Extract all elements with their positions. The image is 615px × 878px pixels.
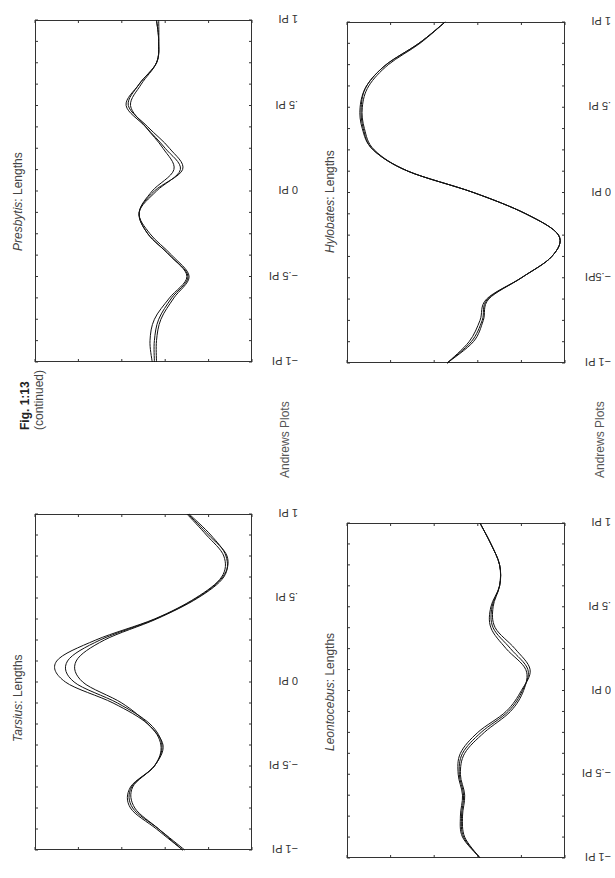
theta-tick-label: −.5 PI [269,270,298,282]
panel-hylobates: −1 PI−.5PI0 PI.5 PI1 PIHylobates: Length… [347,22,565,363]
andrews-curve [126,20,189,362]
andrews-curve [460,523,527,858]
andrews-curve [55,514,226,850]
figure-label: Fig. 1:13 [18,381,32,430]
plot-frame [348,23,565,363]
andrews-curve [361,22,560,363]
theta-tick-label: 1 PI [278,13,298,25]
panel-tarsius: −1 PI−.5 PI0 PI.5 PI1 PITarsius: Lengths [35,514,252,850]
theta-tick-label: 0 PI [278,675,298,687]
andrews-curve [458,523,530,858]
theta-tick-label: 0 PI [591,684,611,696]
side-label-left: Andrews Plots [278,401,292,478]
theta-tick-label: −1 PI [272,843,298,855]
panel-title-suffix: : Lengths [11,654,25,703]
panel-presbytis: −1 PI−.5 PI0 PI.5 PI1 PIPresbytis: Lengt… [35,20,252,362]
panel-title-suffix: : Lengths [323,150,337,199]
plot-area [347,22,565,363]
plot-frame [36,515,252,850]
theta-tick-label: 0 PI [591,186,611,198]
plot-area [35,514,252,850]
theta-tick-label: .5 PI [275,591,298,603]
andrews-curve [362,22,560,363]
panel-title: Tarsius: Lengths [11,654,25,742]
theta-tick-label: .5 PI [275,99,298,111]
panel-title-genus: Leontocebus [323,682,337,751]
panel-title-suffix: : Lengths [11,152,25,201]
theta-tick-label: 1 PI [278,507,298,519]
plot-frame [36,21,252,362]
theta-tick-label: −.5 PI [269,759,298,771]
andrews-curve [128,20,187,362]
plot-area [347,523,565,858]
theta-tick-label: .5 PI [588,600,611,612]
theta-tick-label: .5 PI [588,100,611,112]
panel-leontocebus: −1 PI−.5 PI0 PI.5 PI1 PILeontocebus: Len… [347,523,565,858]
theta-tick-label: −.5PI [585,271,611,283]
andrews-curve [459,523,528,858]
panel-title: Leontocebus: Lengths [323,632,337,750]
panel-title-suffix: : Lengths [323,632,337,681]
andrews-curve [75,514,228,850]
theta-tick-label: −.5 PI [582,767,611,779]
panel-title: Hylobates: Lengths [323,150,337,253]
panel-title-genus: Presbytis [11,202,25,251]
panel-title-genus: Tarsius [11,704,25,742]
panel-title-genus: Hylobates [323,199,337,252]
theta-tick-label: 1 PI [591,516,611,528]
theta-tick-label: 0 PI [278,184,298,196]
side-label-right: Andrews Plots [593,401,607,478]
theta-tick-label: −1 PI [585,851,611,863]
panel-title: Presbytis: Lengths [11,152,25,251]
figure-sublabel: (continued) [32,370,46,430]
theta-tick-label: −1 PI [272,355,298,367]
figure-caption: Fig. 1:13 (continued) [18,370,46,430]
plot-area [35,20,252,362]
andrews-curve [65,514,228,850]
theta-tick-label: 1 PI [591,15,611,27]
plot-frame [348,524,565,858]
andrews-curve [360,22,560,363]
theta-tick-label: −1 PI [585,356,611,368]
